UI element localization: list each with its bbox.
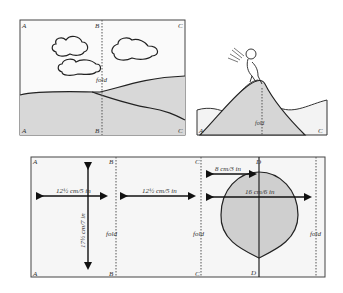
corner-label: C bbox=[178, 22, 183, 30]
landscape-panel: fold A B C A B C bbox=[20, 20, 185, 135]
dimension-label: 17½ cm/7 in bbox=[79, 213, 87, 248]
corner-label: B bbox=[95, 22, 100, 30]
fold-label: fold bbox=[255, 120, 265, 126]
corner-label: B bbox=[95, 127, 100, 135]
corner-label: A bbox=[198, 127, 204, 135]
fold-label: fold bbox=[193, 230, 204, 238]
corner-label: C bbox=[178, 127, 183, 135]
dimension-label: 12½ cm/5 in bbox=[56, 187, 91, 195]
corner-label: D bbox=[250, 269, 256, 277]
corner-label: C bbox=[195, 270, 200, 278]
corner-label: C bbox=[318, 127, 323, 135]
corner-label: A bbox=[32, 270, 38, 278]
corner-label: A bbox=[32, 158, 38, 166]
corner-label: D bbox=[255, 158, 261, 166]
corner-label: B bbox=[109, 158, 114, 166]
cherub-figure-icon bbox=[228, 48, 262, 84]
corner-label: A bbox=[21, 22, 27, 30]
hill-cutout-panel: fold A C bbox=[197, 48, 327, 135]
corner-label: B bbox=[109, 270, 114, 278]
dimension-label: 16 cm/6 in bbox=[245, 188, 275, 196]
corner-label: A bbox=[21, 127, 27, 135]
dimension-label: 12½ cm/5 in bbox=[142, 187, 177, 195]
dimension-label: 8 cm/3 in bbox=[215, 165, 242, 173]
fold-label: fold bbox=[96, 76, 107, 84]
fold-label: fold bbox=[106, 230, 117, 238]
corner-label: C bbox=[195, 158, 200, 166]
template-panel: 12½ cm/5 in 12½ cm/5 in 8 cm/3 in 16 cm/… bbox=[31, 157, 325, 278]
fold-label: fold bbox=[310, 230, 321, 238]
